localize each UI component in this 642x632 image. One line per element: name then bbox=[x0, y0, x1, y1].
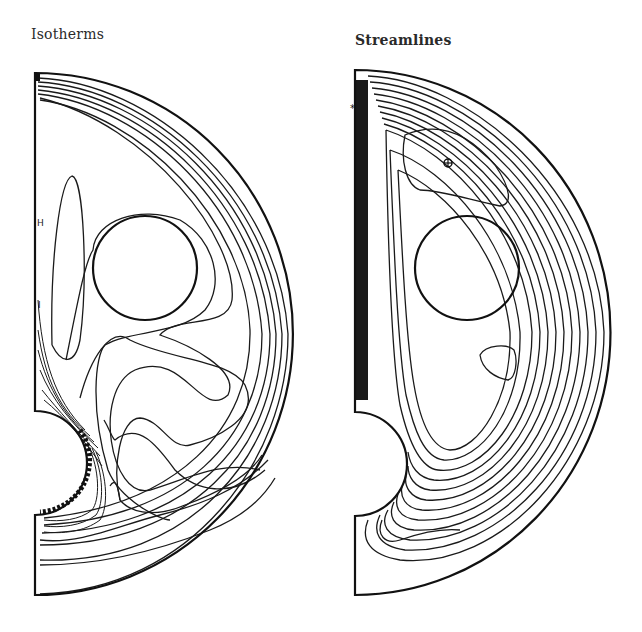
contour-label-i: I bbox=[38, 300, 41, 310]
contour-label-h: H bbox=[37, 218, 44, 228]
wall-boundary-layer bbox=[356, 80, 368, 400]
streamlines-plot: * bbox=[350, 70, 610, 595]
isotherms-boundary bbox=[35, 73, 293, 595]
wall-marker: * bbox=[350, 103, 355, 114]
contour-figure: H I bbox=[0, 0, 642, 632]
vortex-center-marker bbox=[444, 159, 452, 167]
isotherms-plot: H I bbox=[35, 73, 293, 595]
lower-vortex-cell bbox=[480, 346, 516, 380]
